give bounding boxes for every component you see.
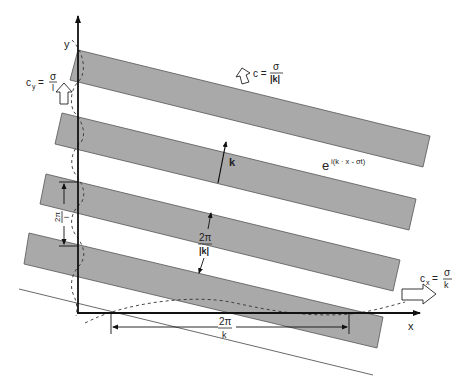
y-wavelength-numerator: 2π: [53, 212, 62, 222]
phase-speed-label: c = σ |k|: [236, 61, 283, 84]
cx-denominator: k: [444, 280, 449, 290]
phase-speed-numerator: σ: [273, 61, 280, 72]
cx-subscript: x: [426, 279, 430, 286]
cx-numerator: σ: [444, 267, 451, 278]
x-wavelength-numerator: 2π: [219, 316, 232, 327]
y-axis-label: y: [64, 38, 70, 50]
cx-label: c x = σ k: [402, 267, 452, 304]
cy-subscript: y: [32, 83, 36, 91]
cy-equals: =: [38, 77, 44, 88]
cx-lhs: c: [420, 273, 425, 284]
phase-front-bands: [24, 50, 430, 348]
phase-speed-denominator: |k|: [270, 74, 280, 84]
wave-expression: e i(k · x - σt): [322, 157, 366, 173]
phase-speed-lhs: c =: [253, 68, 267, 79]
wave-expr-exponent: i(k · x - σt): [331, 157, 366, 166]
hollow-arrow-up-icon: [56, 83, 72, 104]
x-axis-label: x: [408, 320, 414, 332]
hollow-arrow-up-icon: [236, 68, 250, 84]
plane-wave-diagram: y x k e i(k · x - σt) c = σ |k| c y = σ …: [0, 0, 466, 392]
cx-equals: =: [432, 273, 438, 284]
cy-label: c y = σ l: [26, 71, 72, 104]
normal-wavelength-numerator: 2π: [199, 232, 212, 243]
wave-expr-base: e: [322, 158, 329, 173]
normal-wavelength-denominator: |k|: [199, 246, 209, 256]
cy-denominator: l: [52, 83, 54, 93]
cy-numerator: σ: [50, 71, 57, 82]
cy-lhs: c: [26, 77, 31, 88]
x-wavelength-denominator: k: [222, 330, 227, 340]
k-vector-label: k: [229, 156, 236, 168]
hollow-arrow-right-icon: [402, 284, 436, 304]
y-wavelength-denominator: l: [63, 216, 70, 218]
